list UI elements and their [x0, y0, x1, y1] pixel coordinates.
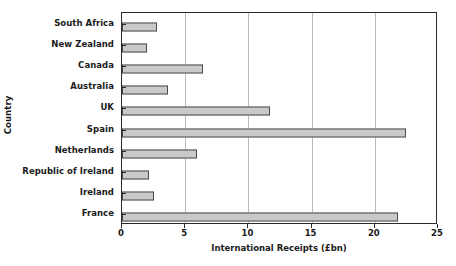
bar — [122, 22, 157, 31]
y-axis-tick-mark — [122, 66, 126, 67]
x-axis-tick-label: 25 — [431, 228, 443, 238]
y-axis-tick-label: Ireland — [80, 187, 114, 197]
bar — [122, 213, 398, 222]
y-axis-tick-mark — [122, 172, 126, 173]
y-axis-tick-mark — [122, 108, 126, 109]
y-axis-tick-label: Australia — [70, 81, 114, 91]
x-axis-title: International Receipts (£bn) — [121, 243, 437, 253]
x-axis-tick-label: 10 — [241, 228, 253, 238]
y-axis-tick-mark — [122, 24, 126, 25]
y-axis-tick-label: Spain — [87, 124, 114, 134]
y-axis-tick-label: Netherlands — [55, 145, 114, 155]
y-axis-tick-mark — [122, 87, 126, 88]
y-axis-tick-label: New Zealand — [51, 39, 114, 49]
y-axis-title-text: Country — [3, 96, 13, 135]
y-axis-tick-label: France — [82, 208, 114, 218]
x-axis-tick-label: 0 — [118, 228, 124, 238]
y-axis-tick-label: UK — [100, 102, 114, 112]
x-axis-ticks: 0510152025 — [121, 224, 437, 240]
x-axis-tick-label: 20 — [368, 228, 380, 238]
y-axis-tick-mark — [122, 193, 126, 194]
y-axis-tick-label: South Africa — [54, 18, 114, 28]
y-axis-tick-mark — [122, 214, 126, 215]
bar — [122, 149, 197, 158]
bar — [122, 65, 203, 74]
bar — [122, 107, 270, 116]
y-axis-tick-label: Republic of Ireland — [22, 166, 114, 176]
y-axis-tick-mark — [122, 45, 126, 46]
x-axis-tick-label: 5 — [181, 228, 187, 238]
bar-chart: Country South AfricaNew ZealandCanadaAus… — [0, 0, 456, 266]
bar — [122, 128, 406, 137]
y-axis-tick-mark — [122, 151, 126, 152]
bar-series — [122, 13, 436, 223]
bar — [122, 192, 154, 201]
y-axis-tick-mark — [122, 130, 126, 131]
plot-area — [121, 12, 437, 224]
y-axis-tick-label: Canada — [78, 60, 114, 70]
bar — [122, 86, 168, 95]
y-axis-tick-labels: South AfricaNew ZealandCanadaAustraliaUK… — [14, 12, 118, 224]
x-axis-tick-label: 15 — [305, 228, 317, 238]
